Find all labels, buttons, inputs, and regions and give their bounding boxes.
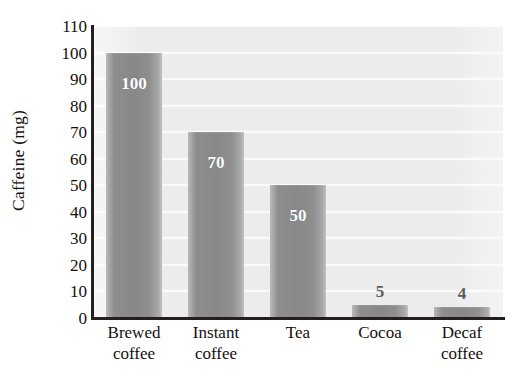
- y-tick-label: 100: [35, 44, 87, 61]
- x-tick-label: Cocoa: [339, 322, 421, 343]
- x-tick-label: Brewedcoffee: [93, 322, 175, 364]
- y-tick-label: 80: [35, 97, 87, 114]
- bar: [352, 305, 408, 318]
- y-tick-label: 110: [35, 18, 87, 35]
- x-tick-label-line2: coffee: [93, 343, 175, 364]
- y-axis-title: Caffeine (mg): [0, 0, 36, 320]
- bar-value-label: 50: [270, 207, 326, 224]
- x-tick-label-line1: Tea: [286, 323, 310, 342]
- y-tick-label: 70: [35, 124, 87, 141]
- y-axis-tick-labels: 0102030405060708090100110: [36, 26, 91, 318]
- x-axis-tick-labels: BrewedcoffeeInstantcoffeeTeaCocoaDecafco…: [93, 322, 503, 386]
- bar-chart: Caffeine (mg) 0102030405060708090100110 …: [0, 0, 525, 388]
- bar-value-label: 70: [188, 154, 244, 171]
- x-tick-label-line2: coffee: [421, 343, 503, 364]
- bar-value-label: 4: [434, 285, 490, 302]
- bar-value-label: 5: [352, 283, 408, 300]
- y-tick-label: 0: [35, 310, 87, 327]
- x-tick-label: Decafcoffee: [421, 322, 503, 364]
- x-tick-label-line1: Decaf: [442, 323, 483, 342]
- x-tick-label-line1: Instant: [193, 323, 239, 342]
- x-tick-label-line1: Brewed: [108, 323, 161, 342]
- y-tick-label: 40: [35, 203, 87, 220]
- y-tick-label: 20: [35, 256, 87, 273]
- gridline: [93, 26, 503, 28]
- x-axis-line: [91, 317, 505, 320]
- x-tick-label: Instantcoffee: [175, 322, 257, 364]
- x-tick-label-line1: Cocoa: [358, 323, 401, 342]
- bar-value-label: 100: [106, 75, 162, 92]
- y-tick-label: 30: [35, 230, 87, 247]
- y-axis-line: [91, 25, 94, 319]
- x-tick-label-line2: coffee: [175, 343, 257, 364]
- bar: [270, 185, 326, 318]
- x-tick-label: Tea: [257, 322, 339, 343]
- y-tick-label: 90: [35, 71, 87, 88]
- y-axis-title-text: Caffeine (mg): [8, 110, 29, 211]
- y-tick-label: 60: [35, 150, 87, 167]
- y-tick-label: 10: [35, 283, 87, 300]
- y-tick-label: 50: [35, 177, 87, 194]
- plot-area: 100705054: [93, 26, 503, 318]
